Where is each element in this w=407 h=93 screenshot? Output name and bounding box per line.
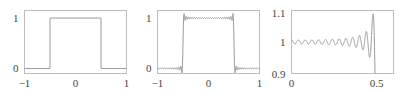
panel-2-ytick-label: 0 [146,62,152,74]
panel-3-ytick-label: 1 [280,36,286,48]
panel-2: 0 1 −1 0 1 [146,11,262,89]
panel-2-fourier-series-line [158,14,260,73]
panel-3: 0.9 1 1.1 0 0.5 [272,7,394,89]
panel-3-ytick-label: 0.9 [272,68,286,80]
panel-2-ytick-label: 1 [146,12,152,24]
panel-1: 0 1 −1 0 1 [13,11,129,89]
panel-3-gibbs-zoom-line [292,14,376,74]
panel-1-xtick-label: 0 [73,77,79,89]
panel-2-frame [158,11,260,74]
panel-1-ytick-label: 0 [13,62,19,74]
panel-1-xtick-label: 1 [124,77,130,89]
panel-2-xtick-label: 1 [257,77,263,89]
panel-3-xtick-label: 0 [289,77,295,89]
panel-1-square-wave-line [25,18,127,68]
panel-3-xtick-label: 0.5 [370,77,384,89]
panel-2-xtick-label: 0 [206,77,212,89]
panel-1-xtick-label: −1 [19,77,31,89]
panel-1-ytick-label: 1 [13,12,19,24]
panel-1-frame [25,11,127,74]
panel-3-ytick-label: 1.1 [272,7,286,19]
panel-2-xtick-label: −1 [152,77,164,89]
figure: 0 1 −1 0 1 0 1 −1 0 1 0.9 1 1.1 0 0.5 [0,0,407,93]
